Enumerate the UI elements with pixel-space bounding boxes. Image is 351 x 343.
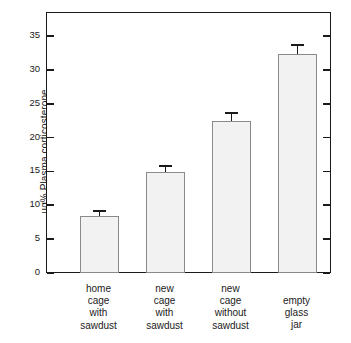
- y-axis-tick-right: [323, 171, 330, 173]
- error-bar-cap: [159, 165, 172, 167]
- y-axis-tick-label: 10: [0, 199, 40, 209]
- y-axis-tick-label: 35: [0, 30, 40, 40]
- bar: [212, 121, 251, 273]
- y-axis-tick-left: [47, 204, 54, 206]
- y-axis-tick-left: [47, 69, 54, 71]
- plot-frame: [46, 12, 331, 273]
- y-axis-tick-left: [47, 35, 54, 37]
- y-axis-tick-right: [323, 137, 330, 139]
- error-bar-cap: [291, 44, 304, 46]
- error-bar-stem: [297, 45, 299, 53]
- bar-chart-figure: µg% Plasma corticosterone 05101520253035…: [0, 0, 351, 343]
- y-axis-tick-label: 15: [0, 165, 40, 175]
- y-axis-tick-right: [323, 238, 330, 240]
- y-axis-tick-label: 20: [0, 132, 40, 142]
- y-axis-tick-right: [323, 204, 330, 206]
- y-axis-tick-left: [47, 137, 54, 139]
- y-axis-tick-right: [323, 35, 330, 37]
- y-axis-tick-left: [47, 103, 54, 105]
- bar: [278, 54, 317, 273]
- y-axis-tick-left: [47, 238, 54, 240]
- bar: [80, 216, 119, 273]
- y-axis-tick-label: 30: [0, 64, 40, 74]
- x-axis-category-label: empty glass jar: [257, 295, 337, 332]
- y-axis-tick-left: [47, 272, 54, 274]
- y-axis-tick-right: [323, 69, 330, 71]
- error-bar-stem: [231, 113, 233, 121]
- y-axis-tick-label: 5: [0, 233, 40, 243]
- bar: [146, 172, 185, 273]
- y-axis-tick-label: 25: [0, 98, 40, 108]
- error-bar-cap: [225, 112, 238, 114]
- y-axis-tick-label: 0: [0, 267, 40, 277]
- error-bar-cap: [93, 210, 106, 212]
- y-axis-tick-right: [323, 272, 330, 274]
- y-axis-tick-right: [323, 103, 330, 105]
- y-axis-tick-left: [47, 171, 54, 173]
- plot-area: [47, 13, 330, 272]
